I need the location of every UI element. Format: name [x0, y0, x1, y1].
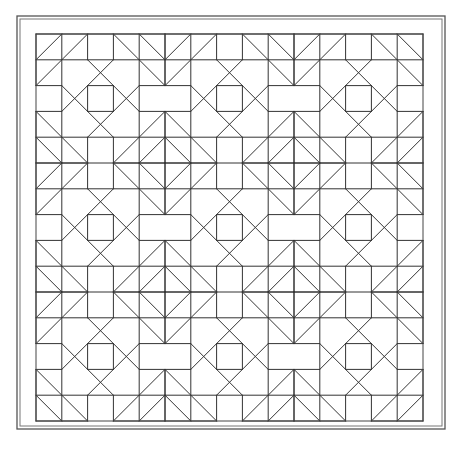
- diagonal-line: [139, 395, 165, 421]
- diagonal-line: [268, 292, 294, 318]
- diagonal-line: [36, 395, 62, 421]
- grid-outline: [36, 34, 423, 421]
- diagonal-line: [36, 292, 62, 318]
- diagonal-line: [139, 292, 165, 318]
- diagonal-line: [397, 163, 423, 189]
- diagonal-line: [397, 292, 423, 318]
- diagonal-line: [397, 266, 423, 292]
- diagonal-line: [165, 34, 191, 60]
- diagonal-line: [165, 292, 191, 318]
- diagonal-line: [294, 292, 320, 318]
- diagonal-line: [165, 266, 191, 292]
- diagonal-line: [294, 266, 320, 292]
- diagonal-line: [36, 266, 62, 292]
- diagonal-line: [165, 395, 191, 421]
- diagonal-line: [397, 137, 423, 163]
- diagonal-line: [139, 163, 165, 189]
- outer-frame-border: [17, 16, 445, 429]
- quilt-grid-pattern: [36, 34, 423, 421]
- diagonal-line: [294, 163, 320, 189]
- diagonal-line: [397, 34, 423, 60]
- diagonal-line: [268, 266, 294, 292]
- diagonal-line: [294, 395, 320, 421]
- diagonal-line: [268, 163, 294, 189]
- diagonal-line: [36, 163, 62, 189]
- diagonal-line: [268, 395, 294, 421]
- diagonal-line: [165, 137, 191, 163]
- diagonal-line: [294, 137, 320, 163]
- diagonal-line: [36, 137, 62, 163]
- quilt-pattern-canvas: [0, 0, 458, 456]
- diagonal-line: [36, 34, 62, 60]
- diagonal-line: [268, 137, 294, 163]
- diagonal-line: [139, 137, 165, 163]
- diagonal-line: [165, 163, 191, 189]
- diagonal-line: [139, 266, 165, 292]
- diagonal-line: [268, 34, 294, 60]
- diagonal-line: [139, 34, 165, 60]
- diagonal-line: [397, 395, 423, 421]
- diagonal-line: [294, 34, 320, 60]
